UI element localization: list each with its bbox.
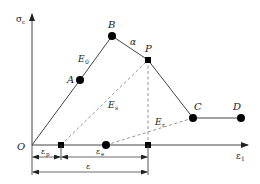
eps-e-label: ε <box>96 147 100 156</box>
origin-label: O <box>17 141 25 152</box>
stress-strain-curve <box>32 36 241 145</box>
stress-strain-diagram: σ c ε 1 O A B P C D E 0 α E s E r ε p ε … <box>0 0 260 184</box>
point-c-label: C <box>194 101 202 112</box>
eps-p-label-sub: p <box>46 151 50 158</box>
e0-label-sub: 0 <box>85 58 89 65</box>
eps-e-marker <box>102 141 110 149</box>
alpha-label: α <box>130 37 136 47</box>
point-p-marker <box>145 57 151 63</box>
point-d-label: D <box>232 101 241 112</box>
eps-label: ε <box>86 162 90 171</box>
point-c-marker <box>189 114 197 122</box>
er-label: E <box>154 117 162 127</box>
point-d-marker <box>237 114 245 122</box>
point-p-label: P <box>144 43 152 54</box>
es-label: E <box>107 100 115 110</box>
y-axis-label-sub: c <box>22 18 26 25</box>
eps-p-label: ε <box>41 147 45 156</box>
es-label-sub: s <box>115 104 118 111</box>
e0-label: E <box>77 54 85 64</box>
unloading-modulus-line <box>106 118 193 145</box>
secant-modulus-line <box>61 60 148 145</box>
point-a-marker <box>76 76 84 84</box>
er-label-sub: r <box>162 121 165 128</box>
eps-e-label-sub: e <box>101 151 104 157</box>
x-axis-label-sub: 1 <box>241 155 245 162</box>
point-b-marker <box>108 32 116 40</box>
point-b-label: B <box>107 19 115 30</box>
point-a-label: A <box>66 74 74 85</box>
